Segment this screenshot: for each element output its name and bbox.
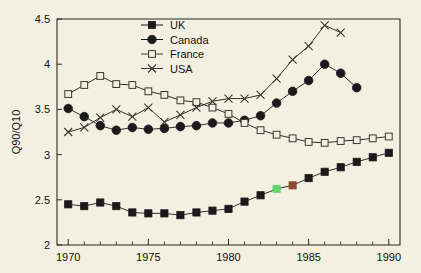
data-point [225,111,232,118]
data-point [353,158,360,165]
data-point [161,92,168,99]
x-tick-label: 1990 [377,251,401,263]
data-point [97,199,104,206]
data-point [336,69,345,78]
data-point [148,21,155,28]
x-tick-label: 1985 [296,251,320,263]
data-point [272,99,281,108]
data-point [149,51,156,58]
data-point [209,207,216,214]
legend-label: UK [170,19,186,31]
data-point [321,139,328,146]
x-tick-label: 1980 [216,251,240,263]
data-point [113,81,120,88]
data-point [177,97,184,104]
data-point [177,212,184,219]
legend-item-canada[interactable]: Canada [141,34,209,46]
y-tick-label: 4.5 [35,13,50,25]
data-point [224,119,233,128]
data-point [320,60,329,69]
data-point [256,111,265,120]
data-point [225,205,232,212]
y-axis-title: Q90/Q10 [10,110,22,155]
data-point [145,210,152,217]
data-point [81,82,88,89]
data-point [288,87,297,96]
data-point [273,185,280,192]
data-point [81,203,88,210]
data-point [192,121,201,130]
data-point [257,127,264,134]
data-point [208,119,217,128]
data-point [113,203,120,210]
data-point [241,198,248,205]
legend-label: USA [170,63,193,75]
chart-figure: 22.533.544.519701975198019851990 UKCanad… [0,0,421,273]
data-point [337,138,344,145]
data-point [64,104,73,113]
data-point [385,133,392,140]
x-tick-label: 1970 [56,251,80,263]
data-point [65,91,72,98]
data-point [353,137,360,144]
data-point [352,83,361,92]
data-point [129,209,136,216]
data-point [241,120,248,127]
data-point [97,73,104,80]
data-point [369,154,376,161]
y-tick-label: 3.5 [35,103,50,115]
data-point [385,149,392,156]
data-point [129,82,136,89]
data-point [65,201,72,208]
data-point [145,88,152,95]
y-tick-label: 2.5 [35,194,50,206]
data-point [305,175,312,182]
legend-label: Canada [170,34,209,46]
data-point [148,35,157,44]
data-point [176,122,185,131]
data-point [337,164,344,171]
data-point [273,131,280,138]
line-chart: 22.533.544.519701975198019851990 UKCanad… [0,0,421,273]
y-tick-label: 4 [44,58,50,70]
data-point [289,182,296,189]
data-point [257,192,264,199]
data-point [289,135,296,142]
data-point [369,135,376,142]
data-point [305,139,312,146]
data-point [321,168,328,175]
y-tick-label: 2 [44,239,50,251]
data-point [112,126,121,135]
data-point [209,104,216,111]
legend-label: France [170,48,204,60]
data-point [193,209,200,216]
data-point [304,76,313,85]
data-point [144,125,153,134]
x-tick-label: 1975 [136,251,160,263]
data-point [80,112,89,121]
data-point [161,210,168,217]
data-point [128,123,137,132]
data-point [96,121,105,130]
y-tick-label: 3 [44,149,50,161]
